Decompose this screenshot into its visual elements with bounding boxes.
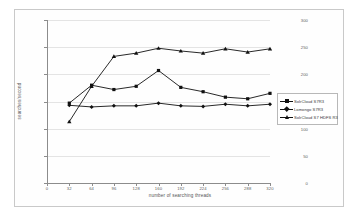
data-point (135, 85, 138, 88)
legend-item-solrcloud-s7r3[interactable]: SolrCloud S7R3 (280, 97, 335, 105)
chart-figure: 050100150200250300 032649612816019222425… (0, 0, 360, 223)
data-point (157, 101, 161, 105)
legend-item-lomongo-s7r3[interactable]: Lomongo S7R3 (280, 105, 335, 113)
data-point (157, 69, 160, 72)
data-point (90, 105, 94, 109)
data-point (201, 104, 205, 108)
data-point (246, 97, 249, 100)
data-point (179, 86, 182, 89)
legend-label: SolrCloud S7R3 (294, 99, 324, 104)
series-line (69, 48, 270, 121)
data-point (268, 47, 272, 51)
legend-item-solrcloud-s7-hdfs-r3[interactable]: SolrCloud S7 HDFS R3 (280, 113, 335, 121)
legend-label: SolrCloud S7 HDFS R3 (294, 115, 338, 120)
data-point (67, 120, 71, 124)
data-point (268, 92, 271, 95)
chart-legend: SolrCloud S7R3 Lomongo S7R3 SolrCloud S7… (277, 93, 338, 125)
data-point (223, 102, 227, 106)
legend-marker-diamond-icon (280, 106, 293, 113)
data-point (224, 96, 227, 99)
legend-marker-triangle-icon (280, 114, 293, 121)
legend-marker-square-icon (280, 98, 293, 105)
data-point (246, 104, 250, 108)
data-point (134, 104, 138, 108)
data-point (268, 102, 272, 106)
series-line (69, 103, 270, 107)
legend-label: Lomongo S7R3 (294, 107, 323, 112)
data-point (112, 88, 115, 91)
data-point (223, 47, 227, 51)
data-point (179, 104, 183, 108)
data-point (112, 104, 116, 108)
data-point (202, 90, 205, 93)
